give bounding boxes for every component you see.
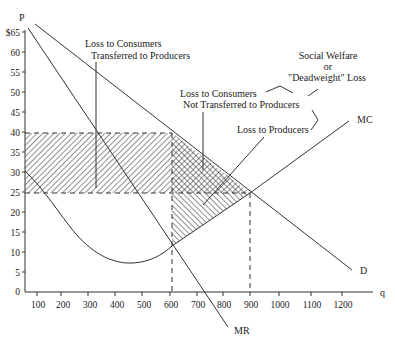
deadweight-label-line2: or — [324, 61, 333, 72]
x-axis-tick-labels: 100 200 300 400 500 600 700 800 900 1000… — [31, 300, 353, 310]
svg-text:700: 700 — [191, 300, 206, 310]
q-axis-label: q — [380, 287, 385, 298]
y-axis-tick-labels: $65 60 55 50 45 40 35 30 25 20 15 10 5 0 — [6, 28, 21, 297]
not-transferred-label-line1: Loss to Consumers — [180, 88, 257, 99]
svg-text:25: 25 — [11, 188, 21, 198]
svg-text:55: 55 — [11, 68, 21, 78]
svg-text:300: 300 — [83, 300, 98, 310]
svg-text:35: 35 — [11, 148, 21, 158]
marginal-revenue-label: MR — [234, 325, 250, 336]
svg-text:40: 40 — [11, 128, 21, 138]
marginal-cost-label: MC — [357, 114, 373, 125]
svg-text:45: 45 — [11, 108, 21, 118]
svg-text:600: 600 — [164, 300, 179, 310]
svg-text:400: 400 — [110, 300, 125, 310]
transferred-label-line1: Loss to Consumers — [85, 38, 162, 49]
loss-to-producers-label: Loss to Producers — [237, 124, 309, 135]
deadweight-brace-link — [308, 89, 318, 96]
svg-text:200: 200 — [56, 300, 71, 310]
monopoly-welfare-chart: $65 60 55 50 45 40 35 30 25 20 15 10 5 0… — [0, 0, 395, 345]
svg-text:15: 15 — [11, 228, 21, 238]
svg-text:0: 0 — [15, 287, 20, 297]
svg-text:900: 900 — [244, 300, 259, 310]
svg-text:60: 60 — [11, 48, 21, 58]
deadweight-brace-right — [311, 110, 318, 130]
svg-text:500: 500 — [137, 300, 152, 310]
transferred-loss-region — [25, 133, 172, 193]
svg-text:10: 10 — [11, 248, 21, 258]
deadweight-label-line1: Social Welfare — [299, 50, 358, 61]
not-transferred-loss-region-b — [172, 133, 250, 193]
svg-text:1100: 1100 — [303, 300, 322, 310]
not-transferred-label-line2: Not Transferred to Producers — [183, 99, 299, 110]
x-axis-ticks — [37, 292, 342, 296]
svg-text:20: 20 — [11, 208, 21, 218]
svg-text:30: 30 — [11, 168, 21, 178]
svg-text:5: 5 — [15, 268, 20, 278]
svg-text:800: 800 — [217, 300, 232, 310]
deadweight-brace-top — [266, 86, 293, 93]
svg-text:100: 100 — [31, 300, 46, 310]
demand-label: D — [360, 265, 367, 276]
svg-text:50: 50 — [11, 88, 21, 98]
transferred-label-line2: Transferred to Producers — [91, 50, 190, 61]
p-axis-label: P — [19, 12, 25, 23]
svg-text:1000: 1000 — [271, 300, 290, 310]
svg-text:$65: $65 — [6, 28, 21, 38]
svg-text:1200: 1200 — [334, 300, 353, 310]
deadweight-label-line3: "Deadweight" Loss — [288, 72, 366, 83]
